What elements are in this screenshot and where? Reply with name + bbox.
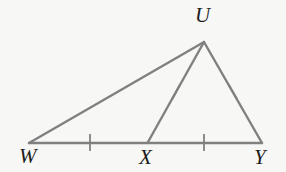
vertex-label-Y: Y <box>254 147 266 168</box>
tick-mark-UX <box>172 84 180 99</box>
tick-mark-UY <box>229 85 238 100</box>
vertex-label-U: U <box>195 5 210 26</box>
vertex-label-W: W <box>19 146 37 167</box>
segment-WU <box>29 42 204 143</box>
geometry-diagram: U W X Y <box>0 0 286 172</box>
vertex-label-X: X <box>139 147 152 168</box>
